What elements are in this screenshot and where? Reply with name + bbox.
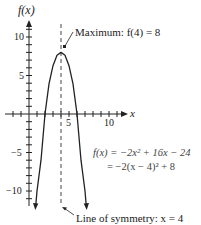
maximum-leader	[65, 32, 73, 46]
x-axis-arrow-icon	[121, 111, 128, 117]
tick-y-5: 5	[19, 71, 24, 81]
curve-arrow-left-icon	[33, 203, 38, 210]
y-axis-arrow-icon	[26, 20, 32, 27]
symmetry-annotation: Line of symmetry: x = 4	[76, 213, 183, 224]
equation-line-1: f(x) = −2x² + 16x − 24	[93, 148, 190, 159]
maximum-annotation: Maximum: f(4) = 8	[75, 27, 160, 38]
curve-arrow-right-icon	[84, 203, 89, 210]
tick-y-neg5: −5	[11, 148, 22, 158]
tick-y-10: 10	[14, 32, 24, 42]
tick-x-10: 10	[104, 118, 114, 128]
tick-y-neg10: −10	[6, 186, 22, 196]
tick-x-5: 5	[66, 118, 71, 128]
equation-line-2: = −2(x − 4)² + 8	[107, 162, 175, 173]
x-axis-label: x	[130, 108, 135, 119]
y-axis-label: f(x)	[18, 4, 35, 16]
